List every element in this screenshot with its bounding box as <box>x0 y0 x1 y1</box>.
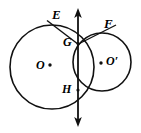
center-label-O: O <box>36 59 45 71</box>
point-label-F: F <box>104 17 113 30</box>
geometry-figure: E F G H O O′ <box>0 0 141 133</box>
geometry-canvas <box>0 0 141 133</box>
point-label-H: H <box>62 83 71 95</box>
point-G-marker <box>76 42 79 45</box>
point-H-marker <box>76 88 79 91</box>
center-dot-O <box>48 63 51 66</box>
point-label-G: G <box>63 36 72 48</box>
center-dot-O-prime <box>99 61 102 64</box>
circle-O <box>10 25 94 109</box>
center-label-O-prime: O′ <box>106 55 118 67</box>
point-label-E: E <box>52 8 61 21</box>
